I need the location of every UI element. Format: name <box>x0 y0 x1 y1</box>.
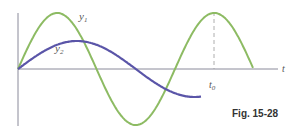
figure-caption: Fig. 15-28 <box>232 108 278 119</box>
t0-label: t0 <box>209 79 216 92</box>
t-axis-label: t <box>282 63 285 74</box>
y1-label: y1 <box>78 10 87 24</box>
